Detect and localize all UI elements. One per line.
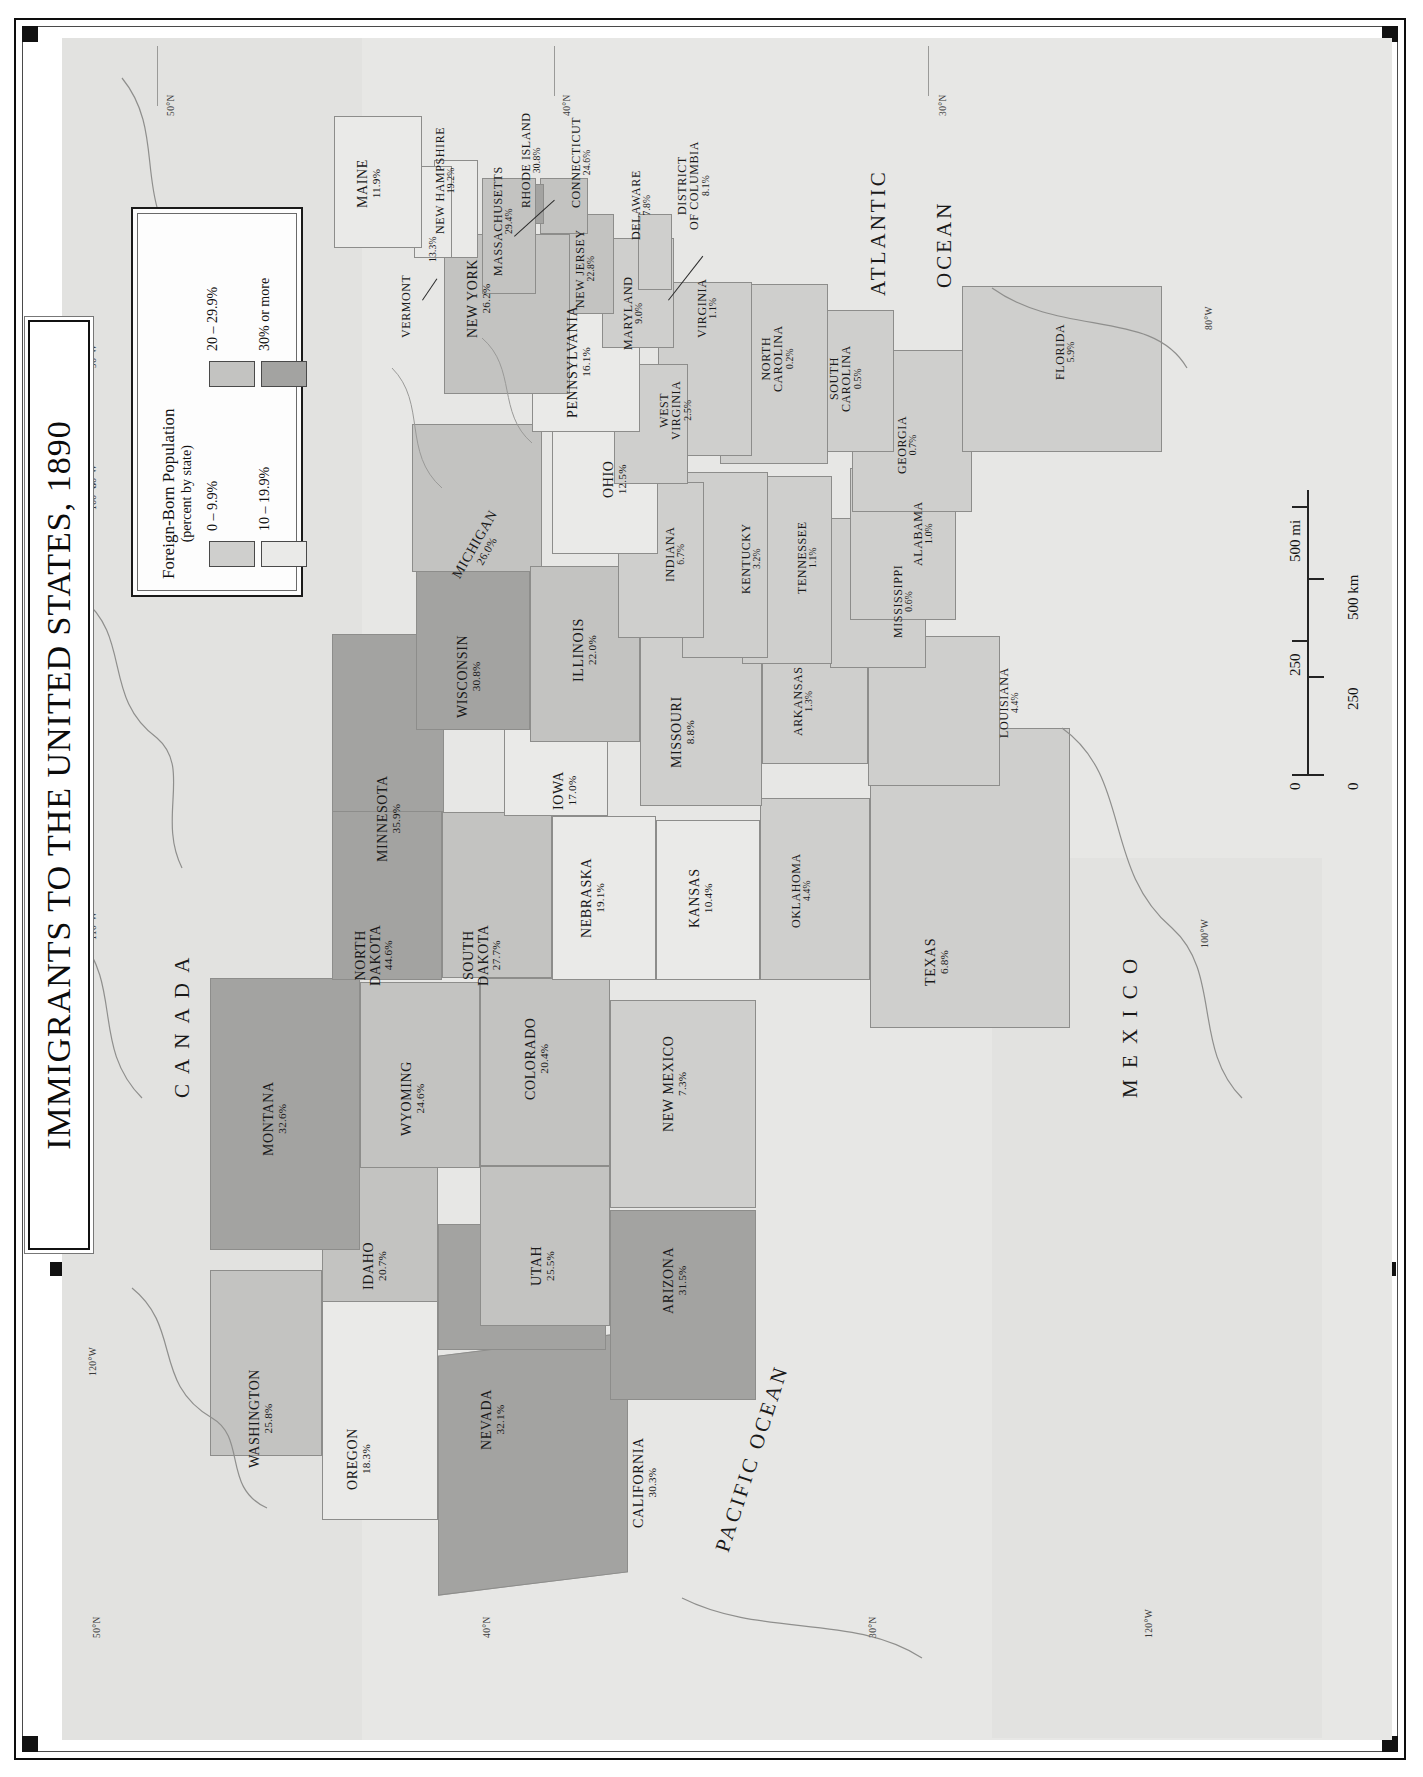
state-value: 0.6% (904, 565, 914, 638)
state-name: NEVADA (480, 1389, 495, 1450)
legend-title: Foreign-Born Population (percent by stat… (159, 409, 195, 579)
label-atlantic-ocean-line2: OCEAN (934, 201, 956, 288)
label-florida: FLORIDA 5.9% (1054, 324, 1076, 380)
graticule-label-100w-right: 100°W (1200, 919, 1210, 948)
state-value: 44.6% (383, 924, 395, 986)
graticule-line-50n (157, 46, 158, 106)
state-name: MAINE (356, 159, 371, 208)
state-value: 22.8% (586, 229, 596, 308)
state-name: MISSOURI (670, 696, 685, 768)
label-rhode-island: RHODE ISLAND 30.8% (520, 112, 542, 208)
graticule-label-40n-top: 40°N (562, 94, 572, 116)
state-value: 6.8% (939, 938, 951, 986)
state-value: 30.8% (471, 635, 483, 718)
legend-swatch-0 (209, 541, 255, 567)
state-value: 30.8% (532, 112, 542, 208)
scale-label-km-250: 250 (1345, 688, 1362, 711)
label-new-jersey: NEW JERSEY 22.8% (574, 229, 596, 308)
legend-label-1: 10 – 19.9% (257, 467, 273, 531)
scale-bar-axis (1307, 490, 1309, 776)
scale-tick-km-0 (1309, 774, 1324, 776)
state-name: ILLINOIS (572, 618, 587, 682)
state-value: 20.7% (377, 1242, 389, 1290)
state-value: 5.9% (1066, 324, 1076, 380)
label-north-dakota: NORTH DAKOTA 44.6% (354, 924, 395, 986)
scale-label-km-0: 0 (1345, 783, 1362, 791)
state-value: 29.4% (504, 166, 514, 276)
state-value: 20.4% (539, 1017, 551, 1100)
state-value: 24.6% (415, 1061, 427, 1136)
label-maine: MAINE 11.9% (356, 159, 382, 208)
state-name: CALIFORNIA (632, 1437, 647, 1528)
label-new-hampshire: NEW HAMPSHIRE 19.2% (434, 127, 456, 234)
state-value: 19.1% (595, 858, 607, 938)
legend-swatch-1 (261, 541, 307, 567)
scale-tick-0 (1292, 774, 1307, 776)
label-wyoming: WYOMING 24.6% (400, 1061, 426, 1136)
graticule-label-120w-right: 120°W (1144, 1609, 1154, 1638)
label-arizona: ARIZONA 31.5% (662, 1247, 688, 1314)
scale-tick-km-250 (1309, 676, 1324, 678)
state-value: 2.5% (683, 381, 693, 440)
state-value: 25.5% (545, 1246, 557, 1286)
label-vermont: VERMONT (400, 274, 412, 338)
label-texas: TEXAS 6.8% (924, 938, 950, 986)
state-value: 7.3% (677, 1036, 689, 1132)
label-arkansas: ARKANSAS 1.3% (792, 667, 814, 736)
state-value: 9.0% (634, 277, 644, 350)
state-value: 30.3% (647, 1437, 659, 1528)
state-name: OHIO (602, 461, 617, 498)
state-name: PENNSYLVANIA (566, 306, 581, 418)
label-iowa: IOWA 17.0% (552, 771, 578, 810)
state-value: 35.9% (391, 775, 403, 862)
state-value: 1.3% (804, 667, 814, 736)
state-name: NEBRASKA (580, 858, 595, 938)
state-name: KANSAS (688, 868, 703, 928)
label-district-of-columbia: DISTRICT OF COLUMBIA 8.1% (676, 141, 711, 230)
label-louisiana: LOUISIANA 4.4% (998, 667, 1020, 738)
graticule-label-120w-left: 120°W (88, 1347, 98, 1376)
label-tennessee: TENNESSEE 1.1% (796, 521, 818, 594)
label-canada: C A N A D A (172, 955, 194, 1098)
legend-swatch-3 (261, 361, 307, 387)
label-new-york: NEW YORK 26.2% (466, 259, 492, 338)
label-atlantic-ocean-line1: ATLANTIC (868, 169, 890, 296)
state-value: 17.0% (567, 771, 579, 810)
state-name: MINNESOTA (376, 775, 391, 862)
state-name: NEW YORK (466, 259, 481, 338)
legend-label-2: 20 – 29.9% (205, 287, 221, 351)
state-value: 1.1% (708, 279, 718, 338)
state-name: VERMONT (400, 274, 412, 338)
state-name: WYOMING (400, 1061, 415, 1136)
scale-bar: 0 250 500 mi 0 250 500 km (1247, 490, 1367, 790)
label-delaware: DELAWARE 7.8% (630, 170, 652, 240)
scale-label-mi-250: 250 (1287, 654, 1304, 677)
state-name: OREGON (346, 1428, 361, 1490)
label-kentucky: KENTUCKY 3.2% (740, 523, 762, 594)
state-value: 1.0% (924, 501, 934, 566)
state-value: 6.7% (676, 526, 686, 582)
label-washington: WASHINGTON 25.8% (248, 1369, 274, 1468)
scale-tick-km-500 (1309, 578, 1324, 580)
legend-label-3: 30% or more (257, 278, 273, 351)
state-value: 0.5% (853, 345, 863, 412)
map-page: 50°N 40°N 30°N 120°W 110°W 100°W 90°W 80… (0, 0, 1423, 1777)
state-value: 0.7% (908, 416, 918, 474)
scale-tick-250 (1292, 640, 1307, 642)
state-value: 18.3% (361, 1428, 373, 1490)
state-value: 11.9% (371, 159, 383, 208)
graticule-line-40n (554, 46, 555, 96)
state-name: COLORADO (524, 1017, 539, 1100)
label-illinois: ILLINOIS 22.0% (572, 618, 598, 682)
label-pennsylvania: PENNSYLVANIA 16.1% (566, 306, 592, 418)
state-name: TEXAS (924, 938, 939, 986)
label-idaho: IDAHO 20.7% (362, 1242, 388, 1290)
state-value: 16.1% (581, 306, 593, 418)
state-name: WASHINGTON (248, 1369, 263, 1468)
label-connecticut: CONNECTICUT 24.6% (570, 117, 592, 208)
legend-title-line1: Foreign-Born Population (159, 409, 179, 579)
page-title: IMMIGRANTS TO THE UNITED STATES, 1890 (40, 420, 78, 1149)
label-wisconsin: WISCONSIN 30.8% (456, 635, 482, 718)
state-name: NEW MEXICO (662, 1036, 677, 1132)
state-value: 19.2% (446, 127, 456, 234)
